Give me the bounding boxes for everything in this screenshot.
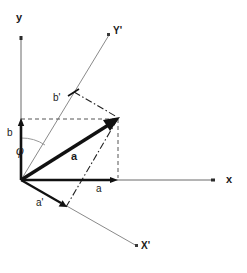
x-prime-axis-arrowhead: [135, 244, 138, 247]
component-b-prime-label: b': [53, 93, 60, 103]
component-b-label: b: [7, 128, 13, 138]
x-axis-arrowhead: [211, 179, 215, 182]
vector-component-diagram: y x Y' X' a a b a' b' φ: [0, 0, 247, 273]
dashdot-b-prime-projection: [74, 92, 117, 117]
vector-a-label: a: [71, 151, 77, 162]
component-a-arrowhead: [110, 177, 118, 183]
y-axis-arrowhead: [20, 36, 23, 40]
dashdot-a-prime-projection: [66, 120, 117, 207]
component-a-label: a: [96, 184, 102, 194]
y-prime-axis-label: Y': [113, 26, 122, 36]
x-prime-axis-label: X': [141, 241, 150, 251]
y-prime-axis-arrowhead: [107, 33, 110, 36]
component-b-prime-tick: [68, 89, 79, 96]
angle-arc: [21, 138, 45, 145]
angle-phi-label: φ: [16, 145, 24, 157]
y-axis-label: y: [16, 12, 22, 23]
x-axis-label: x: [226, 174, 232, 185]
diagram-canvas: [0, 0, 247, 273]
y-prime-axis-line: [21, 35, 109, 180]
component-a-prime-label: a': [36, 198, 43, 208]
vector-a-shaft: [21, 124, 110, 180]
